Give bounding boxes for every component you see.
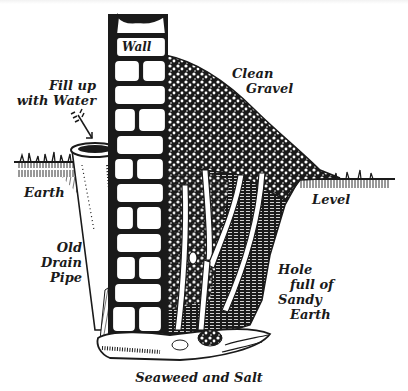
label-with-water: with Water (16, 93, 96, 108)
brick-wall (108, 14, 168, 339)
label-fill-up: Fill up (16, 78, 96, 93)
label-pipe: Pipe (30, 270, 82, 285)
label-old: Old (30, 240, 82, 255)
label-wall: Wall (122, 40, 151, 55)
label-earth-hole: Earth (278, 307, 334, 322)
seaweed-salt-base (98, 329, 271, 360)
label-full-of: full of (278, 277, 334, 292)
label-hole-full-of-sandy-earth: Hole full of Sandy Earth (278, 262, 334, 322)
label-seaweed-and-salt: Seaweed and Salt (124, 370, 274, 385)
label-clean: Clean (232, 66, 293, 81)
label-old-drain-pipe: Old Drain Pipe (30, 240, 82, 285)
label-drain: Drain (30, 255, 82, 270)
label-level: Level (312, 192, 350, 207)
arrow-to-pipe-icon (71, 109, 92, 138)
label-hole: Hole (278, 262, 334, 277)
label-fill-up-with-water: Fill up with Water (16, 78, 96, 108)
label-clean-gravel: Clean Gravel (232, 66, 293, 96)
label-earth: Earth (24, 185, 65, 200)
label-gravel: Gravel (232, 81, 293, 96)
label-sandy: Sandy (278, 292, 334, 307)
